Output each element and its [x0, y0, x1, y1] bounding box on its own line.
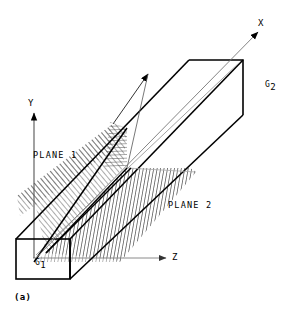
- plane-2-label: PLANE 2: [168, 200, 212, 210]
- plane-1-label: PLANE 1: [33, 150, 77, 160]
- g1-subscript: 1: [40, 260, 46, 270]
- y-axis-label: Y: [28, 98, 34, 108]
- z-axis-label: Z: [172, 252, 178, 262]
- figure-caption: (a): [14, 292, 31, 302]
- g2-subscript: 2: [270, 82, 276, 92]
- g2-label: G2: [265, 80, 276, 92]
- x-axis-label: X: [258, 18, 264, 28]
- g1-label: G1: [35, 258, 46, 270]
